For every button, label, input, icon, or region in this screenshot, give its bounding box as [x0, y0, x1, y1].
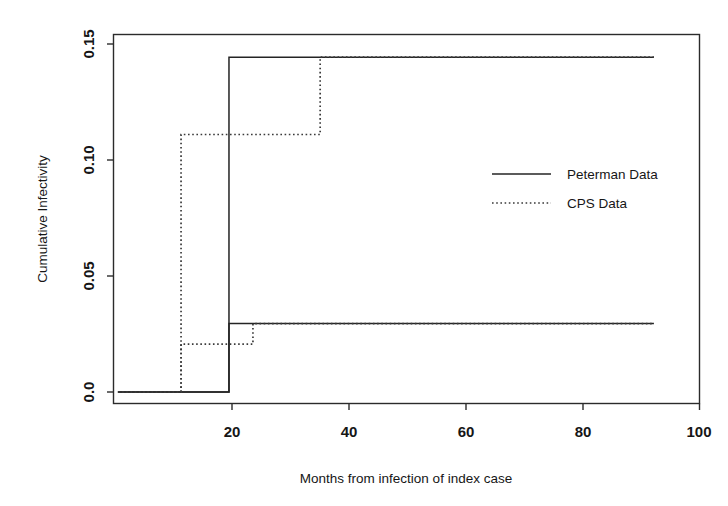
y-tick-label-000: 0.0 [80, 382, 97, 403]
y-axis-title: Cumulative Infectivity [35, 155, 50, 283]
y-tick-label-015: 0.15 [80, 29, 97, 58]
chart-figure: 0.15 0.10 0.05 0.0 Cumulative Infectivit… [0, 0, 728, 506]
y-tick-label-005: 0.05 [80, 261, 97, 290]
y-tick-label-010: 0.10 [80, 145, 97, 174]
step-plot-svg: 0.15 0.10 0.05 0.0 Cumulative Infectivit… [0, 0, 728, 506]
x-tick-label-40: 40 [341, 423, 358, 440]
x-tick-label-20: 20 [224, 423, 241, 440]
x-axis-title: Months from infection of index case [300, 471, 512, 486]
legend-label-peterman: Peterman Data [567, 167, 658, 182]
x-tick-label-60: 60 [458, 423, 475, 440]
x-tick-label-100: 100 [686, 423, 711, 440]
legend-label-cps: CPS Data [567, 196, 628, 211]
x-tick-label-80: 80 [575, 423, 592, 440]
plot-background [0, 0, 728, 506]
